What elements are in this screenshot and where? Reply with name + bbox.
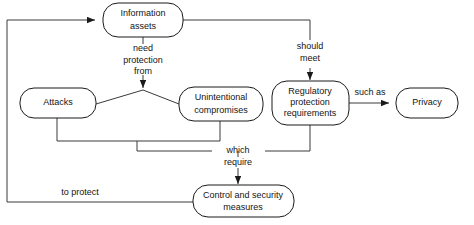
edge-label-which: which [225, 145, 249, 155]
edge-label-need: need [133, 43, 153, 53]
flow-diagram: Information assets Attacks Unintentional… [0, 0, 474, 225]
diagram-canvas: Information assets Attacks Unintentional… [0, 0, 474, 225]
node-control-and-security-measures[interactable]: Control and security measures [193, 185, 294, 217]
node-privacy-label: Privacy [412, 97, 442, 107]
node-unintentional-compromises-line2: compromises [194, 105, 248, 115]
edge-label-need-protection-from: need protection from [123, 43, 163, 76]
edge-label-such-as-text: such as [354, 87, 386, 97]
node-attacks[interactable]: Attacks [20, 88, 96, 118]
node-unintentional-compromises[interactable]: Unintentional compromises [179, 87, 263, 121]
edge-label-to-protect: to protect [61, 187, 99, 197]
node-regulatory-protection-requirements[interactable]: Regulatory protection requirements [272, 81, 349, 125]
node-information-assets[interactable]: Information assets [103, 3, 183, 37]
node-regulatory-line3: requirements [284, 108, 337, 118]
node-regulatory-line1: Regulatory [288, 86, 332, 96]
edge-label-require: require [224, 157, 252, 167]
node-attacks-label: Attacks [43, 97, 73, 107]
edge-split-to-threats [96, 90, 179, 104]
node-privacy[interactable]: Privacy [396, 88, 458, 118]
edge-label-from: from [134, 66, 152, 76]
edge-should-meet [183, 20, 310, 80]
edge-label-such-as: such as [354, 87, 386, 97]
edge-label-should-meet: should meet [297, 41, 324, 63]
node-information-assets-line2: assets [130, 21, 157, 31]
edge-label-should: should [297, 41, 324, 51]
edge-label-meet: meet [300, 53, 321, 63]
node-regulatory-line2: protection [290, 97, 330, 107]
node-control-line1: Control and security [203, 190, 284, 200]
node-control-line2: measures [223, 202, 263, 212]
node-unintentional-compromises-line1: Unintentional [195, 92, 248, 102]
edge-label-protection: protection [123, 55, 163, 65]
node-information-assets-line1: Information [120, 8, 165, 18]
edge-which-require-bus [137, 141, 310, 151]
edge-label-to-protect-text: to protect [61, 187, 99, 197]
